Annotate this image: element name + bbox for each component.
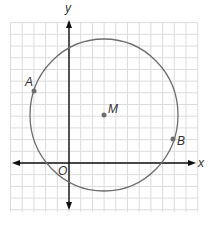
point-b-label: B <box>177 134 185 148</box>
point-b <box>171 137 176 142</box>
point-m-label: M <box>108 102 118 116</box>
x-axis-right-arrow-icon <box>188 160 196 166</box>
origin-label: O <box>58 164 67 178</box>
x-axis-left-arrow-icon <box>12 160 20 166</box>
y-axis-label: y <box>64 1 72 15</box>
y-axis-down-arrow-icon <box>66 202 72 210</box>
point-a <box>32 89 37 94</box>
y-axis-up-arrow-icon <box>66 20 72 28</box>
x-axis-label: x <box>197 156 205 170</box>
point-m <box>102 113 107 118</box>
coordinate-plane: y x O A M B <box>0 0 211 230</box>
point-a-label: A <box>24 75 33 89</box>
